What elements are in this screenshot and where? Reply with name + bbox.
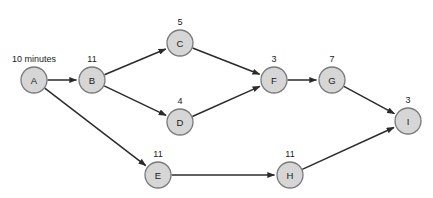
edge-g-to-i <box>344 86 394 113</box>
edge-b-to-c <box>104 49 165 75</box>
node-duration-b: 11 <box>87 54 96 64</box>
node-label-c: C <box>177 38 184 49</box>
edge-b-to-d <box>104 86 166 116</box>
node-i[interactable]: I3 <box>395 95 421 134</box>
node-duration-c: 5 <box>177 17 182 27</box>
node-f[interactable]: F3 <box>261 54 287 93</box>
node-duration-d: 4 <box>177 96 182 106</box>
node-label-b: B <box>89 75 95 86</box>
node-e[interactable]: E11 <box>145 149 171 188</box>
node-label-g: G <box>328 75 335 86</box>
edge-a-to-e <box>45 88 146 165</box>
network-diagram: A10 minutesB11C5D4E11F3G7H11I3 <box>0 0 433 198</box>
edges-layer <box>45 48 395 175</box>
duration-units-label: 10 minutes <box>12 54 57 64</box>
node-d[interactable]: D4 <box>167 96 193 135</box>
network-diagram-canvas: A10 minutesB11C5D4E11F3G7H11I3 <box>0 0 433 198</box>
node-label-i: I <box>407 116 410 127</box>
node-duration-i: 3 <box>405 95 410 105</box>
node-duration-h: 11 <box>285 149 294 159</box>
node-a[interactable]: A10 minutes <box>12 54 57 93</box>
node-label-f: F <box>271 75 277 86</box>
node-duration-f: 3 <box>271 54 276 64</box>
node-b[interactable]: B11 <box>79 54 105 93</box>
node-label-a: A <box>31 75 38 86</box>
node-c[interactable]: C5 <box>167 17 193 56</box>
node-duration-g: 7 <box>329 54 334 64</box>
node-label-e: E <box>155 170 161 181</box>
edge-h-to-i <box>302 127 394 169</box>
edge-d-to-f <box>192 86 260 116</box>
node-label-h: H <box>287 170 294 181</box>
nodes-layer: A10 minutesB11C5D4E11F3G7H11I3 <box>12 17 421 188</box>
edge-c-to-f <box>193 48 260 74</box>
node-h[interactable]: H11 <box>277 149 303 188</box>
node-g[interactable]: G7 <box>319 54 345 93</box>
node-duration-e: 11 <box>153 149 162 159</box>
node-label-d: D <box>177 117 184 128</box>
